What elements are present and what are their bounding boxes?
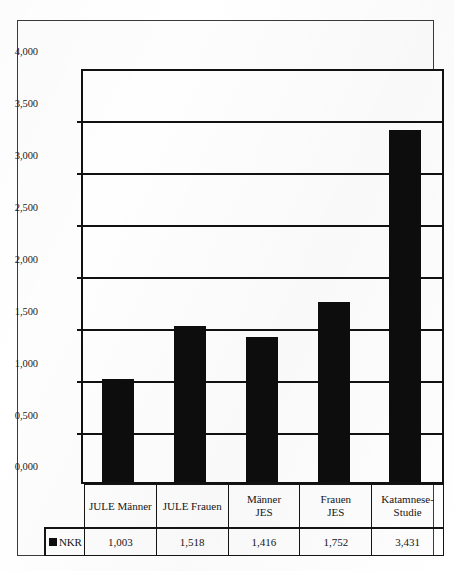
y-tick-label: 0,000 [0, 462, 38, 472]
table-value-row: NKR 1,003 1,518 1,416 1,752 3,431 [45, 528, 444, 556]
y-tick-label: 3,000 [0, 151, 38, 161]
table-value-cell: 1,416 [228, 528, 300, 556]
table-header-cell: JULE Männer [85, 485, 157, 529]
category-label-line: JES [300, 506, 371, 519]
legend-label: NKR [59, 536, 82, 548]
table-value-cell: 3,431 [372, 528, 444, 556]
y-tick-label: 2,500 [0, 203, 38, 213]
table-header-cell: Katamnese-Studie [372, 485, 444, 529]
filled-square-icon [49, 538, 57, 546]
category-label-line: Männer [229, 493, 300, 506]
y-tick-label: 4,000 [0, 47, 38, 57]
table-header-cell: Männer JES [228, 485, 300, 529]
figure-frame: 4,000 3,500 3,000 2,500 2,000 1,500 1,00… [17, 20, 434, 556]
y-tick-label: 2,000 [0, 255, 38, 265]
bar-maenner-jes [246, 337, 278, 482]
category-label-line: JES [229, 506, 300, 519]
table-header-cell: Frauen JES [300, 485, 372, 529]
data-table: JULE Männer JULE Frauen Männer JES Fraue… [44, 484, 444, 556]
legend-cell: NKR [45, 528, 85, 556]
table-value-cell: 1,003 [85, 528, 157, 556]
y-tick-label: 1,500 [0, 307, 38, 317]
y-tick-label: 3,500 [0, 99, 38, 109]
plot-area [81, 69, 444, 484]
bar-jule-frauen [174, 326, 206, 482]
table-value-cell: 1,752 [300, 528, 372, 556]
category-label-line: JULE Frauen [157, 500, 228, 513]
bar-frauen-jes [318, 302, 350, 482]
gridline [83, 121, 442, 123]
category-label-line: Frauen [300, 493, 371, 506]
category-label-line: Katamnese-Studie [372, 493, 443, 519]
table-header-row: JULE Männer JULE Frauen Männer JES Fraue… [45, 485, 444, 529]
table-value-cell: 1,518 [156, 528, 228, 556]
bar-jule-maenner [102, 379, 134, 482]
table-header-cell: JULE Frauen [156, 485, 228, 529]
y-tick-label: 1,000 [0, 359, 38, 369]
category-label-line: JULE Männer [85, 500, 156, 513]
bar-katamnese-studie [389, 130, 421, 482]
y-tick-label: 0,500 [0, 411, 38, 421]
table-corner-cell [45, 485, 85, 529]
